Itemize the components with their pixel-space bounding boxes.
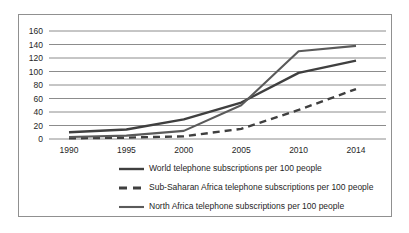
y-axis-tick-label: 140 <box>29 40 43 50</box>
chart-legend: World telephone subscriptions per 100 pe… <box>119 159 373 216</box>
y-axis-tick-label: 20 <box>34 121 44 131</box>
line-chart-plot-area: 0204060801001201401601990199520002005201… <box>19 15 391 158</box>
legend-label-north-africa: North Africa telephone subscriptions per… <box>149 202 344 211</box>
legend-label-sub-saharan-africa: Sub-Saharan Africa telephone subscriptio… <box>149 183 373 192</box>
x-axis-tick-label: 1990 <box>60 145 79 155</box>
x-axis-tick-label: 1995 <box>117 145 136 155</box>
y-axis-tick-label: 60 <box>34 94 44 104</box>
y-axis-tick-label: 40 <box>34 107 44 117</box>
x-axis-tick-label: 2005 <box>232 145 251 155</box>
y-axis-tick-label: 160 <box>29 26 43 36</box>
y-axis-tick-label: 120 <box>29 53 43 63</box>
legend-label-world: World telephone subscriptions per 100 pe… <box>149 164 322 173</box>
legend-item-world: World telephone subscriptions per 100 pe… <box>119 159 373 178</box>
y-axis-tick-label: 100 <box>29 67 43 77</box>
x-axis-tick-label: 2000 <box>174 145 193 155</box>
x-axis-tick-label: 2014 <box>347 145 366 155</box>
screenshot-canvas: 0204060801001201401601990199520002005201… <box>0 0 409 233</box>
legend-item-north-africa: North Africa telephone subscriptions per… <box>119 197 373 216</box>
sub-saharan-africa-line-marker <box>119 185 144 191</box>
series-line-north-africa <box>69 46 356 137</box>
north-africa-line-marker <box>119 204 144 210</box>
legend-item-sub-saharan-africa: Sub-Saharan Africa telephone subscriptio… <box>119 178 373 197</box>
chart-figure: 0204060801001201401601990199520002005201… <box>18 14 392 217</box>
y-axis-tick-label: 0 <box>38 134 43 144</box>
x-axis-tick-label: 2010 <box>289 145 308 155</box>
world-line-marker <box>119 166 144 172</box>
y-axis-tick-label: 80 <box>34 80 44 90</box>
